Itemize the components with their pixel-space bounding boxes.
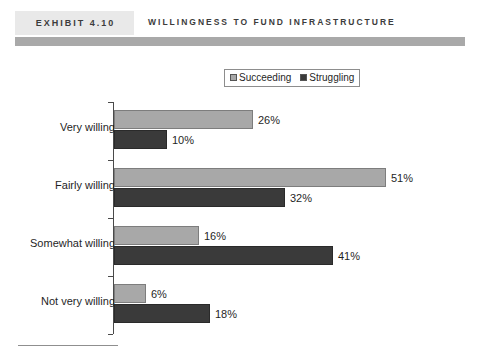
bar-succeeding — [114, 226, 199, 245]
bar-value-label: 41% — [338, 250, 360, 262]
bar-row: 16% — [114, 226, 226, 245]
bar-row: 41% — [114, 246, 360, 265]
bar-struggling — [114, 246, 333, 265]
exhibit-number-label: EXHIBIT 4.10 — [34, 18, 116, 28]
bar-struggling — [114, 130, 167, 149]
bar-value-label: 51% — [391, 172, 413, 184]
category-label: Fairly willing — [55, 179, 115, 191]
bar-group: Not very willing6%18% — [0, 276, 479, 334]
bar-group: Somewhat willing16%41% — [0, 218, 479, 276]
category-label: Very willing — [60, 121, 115, 133]
bar-row: 6% — [114, 284, 167, 303]
footer-divider-rule — [18, 345, 118, 346]
bar-struggling — [114, 188, 285, 207]
legend-item-struggling: Struggling — [300, 72, 354, 83]
bar-row: 10% — [114, 130, 194, 149]
bar-group: Very willing26%10% — [0, 102, 479, 160]
legend-swatch-icon-struggling — [300, 74, 307, 81]
bar-value-label: 26% — [258, 114, 280, 126]
category-label: Not very willing — [41, 295, 115, 307]
bar-value-label: 18% — [215, 308, 237, 320]
legend-label-succeeding: Succeeding — [239, 72, 291, 83]
bar-value-label: 6% — [151, 288, 167, 300]
bar-row: 18% — [114, 304, 237, 323]
exhibit-tag-box: EXHIBIT 4.10 — [15, 11, 134, 35]
bar-value-label: 32% — [290, 192, 312, 204]
bar-row: 32% — [114, 188, 312, 207]
legend-swatch-icon-succeeding — [230, 74, 237, 81]
bar-succeeding — [114, 168, 386, 187]
legend-label-struggling: Struggling — [309, 72, 354, 83]
bar-row: 26% — [114, 110, 280, 129]
page-title: WILLINGNESS TO FUND INFRASTRUCTURE — [148, 17, 396, 27]
bar-row: 51% — [114, 168, 413, 187]
axis-tick — [108, 334, 113, 335]
bar-succeeding — [114, 284, 146, 303]
bar-value-label: 16% — [204, 230, 226, 242]
chart-plot-area: Very willing26%10%Fairly willing51%32%So… — [0, 98, 479, 338]
chart-legend: Succeeding Struggling — [224, 69, 360, 87]
bar-succeeding — [114, 110, 253, 129]
bar-group: Fairly willing51%32% — [0, 160, 479, 218]
exhibit-header: EXHIBIT 4.10 WILLINGNESS TO FUND INFRAST… — [0, 0, 479, 52]
bar-value-label: 10% — [172, 134, 194, 146]
header-divider-rule — [15, 37, 465, 46]
legend-item-succeeding: Succeeding — [230, 72, 291, 83]
category-label: Somewhat willing — [30, 237, 115, 249]
bar-struggling — [114, 304, 210, 323]
